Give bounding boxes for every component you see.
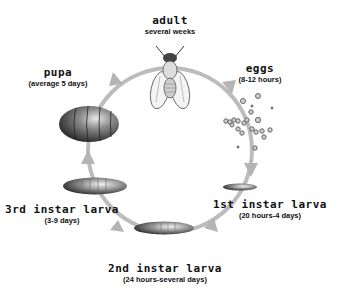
eggs-cluster-icon xyxy=(224,94,273,151)
first-instar-larva-icon xyxy=(223,184,257,191)
stage-name: pupa xyxy=(18,67,98,79)
stage-name: 3rd instar larva xyxy=(2,204,122,216)
stage-label-second-instar: 2nd instar larva (24 hours-several days) xyxy=(100,263,230,284)
stage-duration: (8-12 hours) xyxy=(230,75,290,84)
arrow-third-to-pupa-icon xyxy=(81,150,95,164)
stage-name: 1st instar larva xyxy=(205,199,335,211)
stage-duration: (24 hours-several days) xyxy=(100,275,230,284)
stage-name: adult xyxy=(130,15,210,27)
stage-label-pupa: pupa (average 5 days) xyxy=(18,67,98,88)
stage-name: 2nd instar larva xyxy=(100,263,230,275)
stage-duration: (3-9 days) xyxy=(2,216,122,225)
stage-duration: (average 5 days) xyxy=(18,79,98,88)
arrow-pupa-to-adult-icon xyxy=(109,72,123,86)
fly-icon xyxy=(147,46,193,110)
stage-label-eggs: eggs (8-12 hours) xyxy=(230,63,290,84)
stage-duration: several weeks xyxy=(130,27,210,36)
life-cycle-diagram xyxy=(0,0,338,301)
second-instar-larva-icon xyxy=(134,222,194,235)
stage-label-third-instar: 3rd instar larva (3-9 days) xyxy=(2,204,122,225)
third-instar-larva-icon xyxy=(63,178,127,195)
stage-label-first-instar: 1st instar larva (20 hours-4 days) xyxy=(205,199,335,220)
stage-label-adult: adult several weeks xyxy=(130,15,210,36)
pupa-icon xyxy=(59,106,119,142)
stage-duration: (20 hours-4 days) xyxy=(205,211,335,220)
stage-name: eggs xyxy=(230,63,290,75)
